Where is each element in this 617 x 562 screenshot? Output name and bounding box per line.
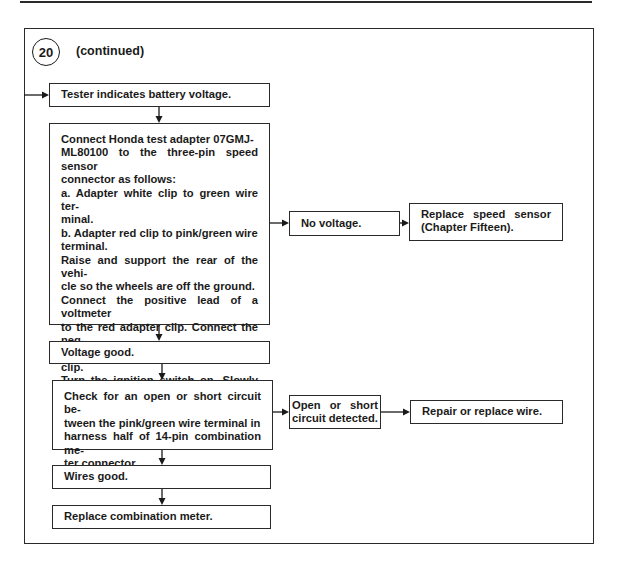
node-replace-combination-meter: Replace combination meter.: [52, 505, 271, 529]
node-text: Replace combination meter.: [64, 510, 213, 523]
node-line: tween the pink/green wire terminal in: [64, 417, 261, 430]
node-open-short-detected: Open or short circuit detected.: [289, 395, 381, 429]
node-voltage-good: Voltage good.: [49, 341, 270, 364]
node-line: Replacespeedsensor: [421, 208, 551, 221]
node-text: Tester indicates battery voltage.: [61, 88, 231, 101]
node-wires-good: Wires good.: [52, 465, 271, 489]
node-repair-replace-wire: Repair or replace wire.: [410, 400, 563, 424]
node-line: circuit detected.: [290, 412, 380, 425]
node-line: terminal.: [61, 240, 258, 253]
node-no-voltage: No voltage.: [289, 211, 400, 236]
node-line: Connect the positive lead of a voltmeter: [61, 294, 258, 321]
node-line: cle so the wheels are off the ground.: [61, 280, 258, 293]
node-word: sensor: [514, 208, 551, 221]
node-line: a. Adapter white clip to green wire ter-: [61, 187, 258, 214]
node-line: ML80100 to the three-pin speed sensor: [61, 146, 258, 173]
node-line: Raise and support the rear of the vehi-: [61, 254, 258, 281]
node-tester-battery-voltage: Tester indicates battery voltage.: [49, 83, 270, 107]
node-text: Voltage good.: [61, 346, 134, 359]
node-line: Open or short: [290, 399, 380, 412]
node-check-open-short-circuit: Check for an open or short circuit be- t…: [52, 380, 273, 450]
node-line: minal.: [61, 213, 258, 226]
node-text: Wires good.: [64, 470, 128, 483]
node-line: Connect Honda test adapter 07GMJ-: [61, 133, 258, 146]
node-line: harness half of 14-pin combination me-: [64, 430, 261, 457]
node-text: No voltage.: [301, 217, 361, 230]
node-line: b. Adapter red clip to pink/green wire: [61, 227, 258, 240]
node-line: Check for an open or short circuit be-: [64, 390, 261, 417]
node-connect-test-adapter: Connect Honda test adapter 07GMJ- ML8010…: [49, 123, 270, 325]
node-replace-speed-sensor: Replacespeedsensor (Chapter Fifteen).: [409, 203, 563, 241]
node-line: connector as follows:: [61, 173, 258, 186]
node-text: Repair or replace wire.: [422, 405, 542, 418]
node-word: Replace: [421, 208, 464, 221]
node-word: speed: [473, 208, 505, 221]
node-line: (Chapter Fifteen).: [421, 221, 551, 234]
